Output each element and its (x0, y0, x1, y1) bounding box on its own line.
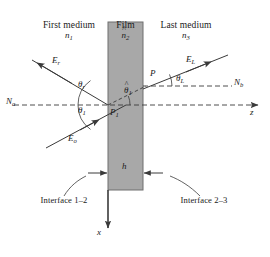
incident-ray-arrow (80, 122, 96, 131)
z-axis-label: z (250, 108, 254, 118)
interface-left-line1: Interface (41, 195, 72, 205)
interface-right-label: Interface 2–3 (158, 196, 250, 205)
interface-left-leader (64, 176, 86, 196)
last-medium-label: Last medium n3 (148, 20, 224, 41)
last-medium-index: n3 (148, 31, 224, 41)
first-medium-name: First medium (43, 20, 95, 30)
film-index: ^n2 (108, 31, 143, 41)
interface-right-line1: Interface (181, 195, 212, 205)
transmitted-field-label: EL (186, 55, 195, 65)
theta-film-hat: ^ (124, 81, 129, 89)
theta-1-label: θ1 (78, 106, 86, 116)
x-axis-label: x (97, 228, 101, 238)
first-medium-index: n1 (32, 31, 106, 41)
last-medium-name: Last medium (161, 20, 212, 30)
first-medium-label: First medium n1 (32, 20, 106, 41)
theta-r-label: θr (78, 80, 85, 90)
reflected-ray-arrow (40, 65, 72, 84)
interface-left-line2: 1–2 (74, 195, 87, 205)
reflected-field-label: Er (52, 56, 60, 66)
interface-right-leader (170, 176, 200, 196)
point-p1-label: P1 (110, 108, 119, 118)
theta-film-label: ^θ1 (124, 86, 132, 96)
normal-b-label: Nb (234, 78, 244, 88)
interface-right-line2: 2–3 (214, 195, 227, 205)
thin-film-ray-diagram: First medium n1 Film ^n2 Last medium n3 … (0, 0, 270, 257)
film-index-hat: ^ (121, 26, 126, 34)
film-label: Film ^n2 (108, 20, 143, 41)
normal-a-label: Na (6, 97, 16, 107)
interface-left-label: Interface 1–2 (18, 196, 110, 205)
point-p-label: P (150, 69, 156, 79)
theta-L-label: θL (176, 74, 184, 84)
incident-field-label: Eo (68, 134, 77, 144)
thickness-label: h (122, 162, 127, 172)
theta-L-arc (170, 74, 173, 86)
